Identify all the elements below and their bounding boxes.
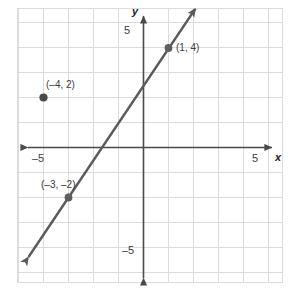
x-axis-name-label: x [275,152,281,163]
point-label-minus3-minus2: (–3, –2) [41,180,75,190]
plot-point-minus4-2 [39,93,47,101]
y-tick-label-minus5: –5 [122,245,134,256]
plot-point-minus3-minus2 [65,194,73,202]
point-label-1-4: (1, 4) [176,43,199,53]
plot-point-1-4 [165,44,173,52]
plot-background [18,9,283,283]
x-tick-label-minus5: –5 [32,153,44,164]
graph-canvas [0,0,289,297]
x-tick-label-5: 5 [252,153,258,164]
y-axis-name-label: y [132,6,138,17]
point-label-minus4-2: (–4, 2) [46,80,75,90]
y-tick-label-5: 5 [124,25,130,36]
coordinate-plane-figure: 5 –5 –5 5 y x (–4, 2) (1, 4) (–3, –2) [0,0,289,297]
